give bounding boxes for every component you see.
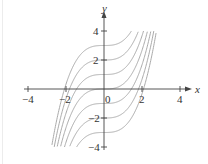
y-tick-label: 4 bbox=[93, 25, 99, 37]
y-tick-label: 2 bbox=[93, 54, 99, 66]
curve bbox=[52, 31, 131, 145]
x-axis-arrow-icon bbox=[185, 87, 192, 92]
x-tick-label: −2 bbox=[59, 93, 71, 105]
x-tick-label: 2 bbox=[139, 93, 145, 105]
x-tick-label: −4 bbox=[22, 93, 34, 105]
y-tick-label: −4 bbox=[88, 141, 100, 153]
cubic-family-plot: x y −4 −2 0 2 4 4 2 −2 −4 bbox=[0, 0, 208, 164]
y-tick-label: −2 bbox=[88, 112, 100, 124]
x-tick-label: 0 bbox=[105, 93, 111, 105]
x-tick-label: 4 bbox=[177, 93, 183, 105]
y-axis-label: y bbox=[101, 2, 107, 14]
curve bbox=[77, 33, 156, 147]
x-axis-label: x bbox=[194, 83, 200, 95]
